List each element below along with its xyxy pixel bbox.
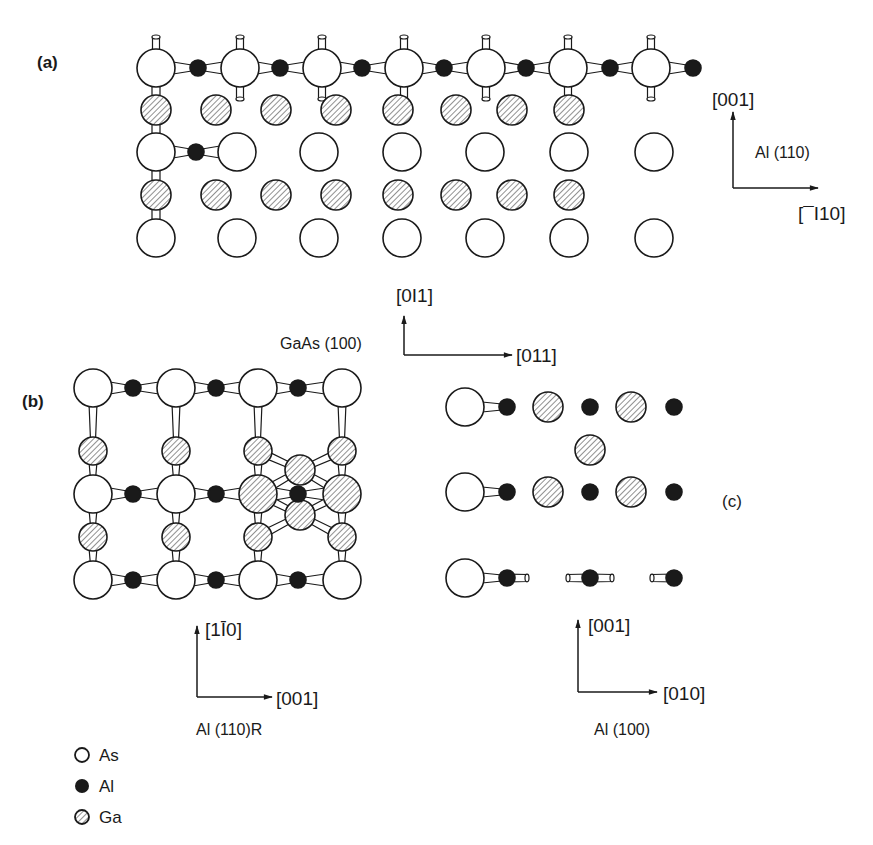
as-atom — [635, 219, 673, 257]
dangling-bond-end — [647, 97, 655, 101]
ga-atom — [321, 180, 351, 210]
ga-atom — [328, 523, 356, 551]
axes-al110: [001] [¯I10] Al (110) — [712, 89, 845, 224]
al-atom — [290, 486, 306, 502]
as-atom — [239, 561, 277, 599]
legend-ga-icon — [75, 810, 89, 824]
ga-atom — [497, 95, 527, 125]
as-atom — [239, 369, 277, 407]
as-atom — [137, 133, 175, 171]
axes-gaas100: [0I1] [011] GaAs (100) — [280, 285, 557, 366]
bond — [254, 403, 262, 440]
as-atom — [300, 133, 338, 171]
dangling-bond-end — [236, 97, 244, 101]
as-atom — [303, 49, 341, 87]
ga-atom — [285, 500, 315, 530]
as-atom — [157, 561, 195, 599]
al-atom — [354, 60, 370, 76]
as-atom — [137, 219, 175, 257]
as-atom — [300, 219, 338, 257]
dangling-bond-end — [318, 35, 326, 39]
al-atom — [436, 60, 452, 76]
al-atom — [125, 486, 141, 502]
al-atom — [499, 570, 515, 586]
legend: As Al Ga — [75, 746, 122, 827]
as-atom — [383, 219, 421, 257]
ga-atom — [575, 435, 605, 465]
axis-label-bar110: [¯I10] — [798, 203, 845, 224]
as-atom — [550, 133, 588, 171]
as-atom — [466, 133, 504, 171]
axis-label-0bar11: [0I1] — [396, 285, 433, 306]
bond — [89, 403, 97, 440]
as-atom — [137, 49, 175, 87]
as-atom — [157, 475, 195, 513]
al-atom — [518, 60, 534, 76]
al-atom — [208, 486, 224, 502]
as-atom — [467, 49, 505, 87]
bond — [338, 403, 346, 440]
al-atom — [125, 572, 141, 588]
as-atom — [635, 133, 673, 171]
ga-atom — [79, 437, 107, 465]
axis-label-001: [001] — [712, 89, 754, 110]
as-atom — [466, 219, 504, 257]
panel-a-al110-on-gaas — [137, 35, 701, 257]
axes-al100: [001] [010] Al (100) — [578, 615, 705, 738]
crystal-structure-figure: (a) (b) (c) [001] [¯I10] Al (110) [0I1] … — [0, 0, 873, 845]
al-atom — [685, 60, 701, 76]
ga-atom — [201, 95, 231, 125]
dangling-bond-end — [647, 35, 655, 39]
as-atom — [383, 133, 421, 171]
panel-c-label: (c) — [722, 492, 742, 511]
legend-as-label: As — [99, 746, 119, 765]
as-atom — [446, 473, 484, 511]
ga-atom — [497, 180, 527, 210]
dangling-bond-end — [650, 574, 654, 582]
bond — [172, 403, 180, 440]
axis-label-010: [010] — [663, 683, 705, 704]
as-atom — [550, 219, 588, 257]
dangling-bond-end — [482, 35, 490, 39]
dangling-bond-end — [564, 35, 572, 39]
ga-atom — [162, 437, 190, 465]
ga-atom — [201, 180, 231, 210]
ga-atom — [79, 523, 107, 551]
as-atom — [74, 369, 112, 407]
as-atom — [385, 49, 423, 87]
panel-b-al110r-on-gaas — [74, 369, 361, 599]
as-atom — [323, 561, 361, 599]
as-atom — [74, 475, 112, 513]
al-atom — [290, 380, 306, 396]
as-atom — [549, 49, 587, 87]
panel-b-label: (b) — [22, 392, 44, 411]
as-atom — [446, 388, 484, 426]
ga-atom — [533, 477, 563, 507]
panel-a-label: (a) — [37, 53, 58, 72]
al-atom — [666, 570, 682, 586]
al-atom — [499, 484, 515, 500]
dangling-bond-end — [400, 35, 408, 39]
axis-label-001-c: [001] — [588, 615, 630, 636]
ga-atom — [239, 475, 277, 513]
al-atom — [582, 399, 598, 415]
as-atom — [218, 133, 256, 171]
dangling-bond-end — [152, 35, 160, 39]
ga-atom — [441, 95, 471, 125]
ga-atom — [162, 523, 190, 551]
al-atom — [582, 570, 598, 586]
plane-label-al110r: Al (110)R — [196, 721, 262, 738]
legend-al-label: Al — [99, 777, 114, 796]
dangling-bond-end — [236, 35, 244, 39]
al-atom — [272, 60, 288, 76]
as-atom — [218, 219, 256, 257]
al-atom — [208, 572, 224, 588]
al-atom — [188, 144, 204, 160]
ga-atom — [244, 523, 272, 551]
al-atom — [190, 60, 206, 76]
ga-atom — [244, 437, 272, 465]
dangling-bond-end — [482, 97, 490, 101]
ga-atom — [328, 437, 356, 465]
ga-atom — [261, 95, 291, 125]
dangling-bond-end — [566, 574, 570, 582]
